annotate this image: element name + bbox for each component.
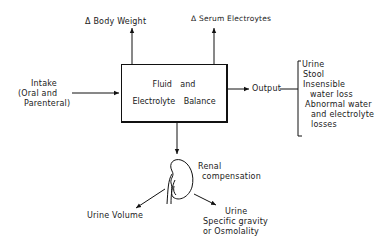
renal-line-2: compensation xyxy=(202,172,261,182)
output-item-abnormal-1: Abnormal water xyxy=(305,100,372,110)
intake-line-3: Parenteral) xyxy=(24,99,70,109)
body-weight-label: Δ Body Weight xyxy=(85,17,146,27)
output-item-urine: Urine xyxy=(302,60,324,70)
urine-sg-line-2: Specific gravity xyxy=(203,217,268,227)
kidney-icon xyxy=(167,160,193,204)
serum-electrolytes-label: Δ Serum Electroytes xyxy=(191,14,271,24)
box-line-2: Electrolyte Balance xyxy=(122,97,226,106)
intake-line-1: Intake xyxy=(31,79,57,89)
output-item-insensible-1: Insensible xyxy=(303,80,345,90)
box-line-1: Fluid and xyxy=(122,80,226,89)
output-bracket xyxy=(298,61,302,136)
output-item-insensible-2: water loss xyxy=(310,90,353,100)
output-label: Output xyxy=(252,84,281,94)
output-item-abnormal-3: losses xyxy=(311,120,337,130)
arrow-to-urine-sg xyxy=(194,194,216,205)
intake-line-2: (Oral and xyxy=(18,89,57,99)
renal-line-1: Renal xyxy=(198,162,221,172)
fluid-electrolyte-balance-box: Fluid and Electrolyte Balance xyxy=(121,64,228,123)
arrow-to-urine-volume xyxy=(136,189,165,208)
urine-sg-line-1: Urine xyxy=(225,207,247,217)
urine-sg-line-3: or Osmolality xyxy=(203,227,259,237)
output-item-stool: Stool xyxy=(303,70,324,80)
urine-volume-label: Urine Volume xyxy=(87,211,143,221)
output-item-abnormal-2: and electrolyte xyxy=(311,110,374,120)
